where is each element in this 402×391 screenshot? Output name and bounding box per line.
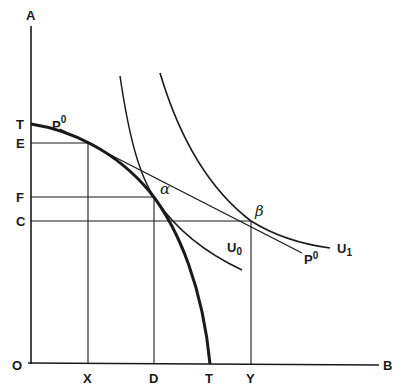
tick-label-Y: Y bbox=[246, 371, 255, 386]
tick-label-X: X bbox=[83, 371, 92, 386]
indifference-curve-U0 bbox=[120, 76, 242, 270]
axis-label-B: B bbox=[383, 358, 392, 373]
point-alpha-label: α bbox=[160, 180, 170, 198]
indifference-label-U0: U0 bbox=[227, 240, 242, 257]
indifference-label-U1: U1 bbox=[337, 241, 352, 258]
price-line-P0 bbox=[60, 129, 302, 253]
axis-label-A: A bbox=[26, 8, 36, 23]
origin-label-O: O bbox=[12, 358, 22, 373]
price-line-label-top: P0 bbox=[52, 114, 67, 133]
tick-label-T-vertical: T bbox=[16, 117, 24, 132]
trade-diagram: A B O T E F C X D T Y P0 P0 U0 U1 α β bbox=[0, 0, 402, 391]
point-beta-label: β bbox=[254, 202, 264, 220]
price-line-label-bottom: P0 bbox=[304, 250, 319, 267]
tick-label-T-horizontal: T bbox=[205, 371, 213, 386]
tick-label-D: D bbox=[149, 371, 158, 386]
indifference-curve-U1 bbox=[160, 73, 330, 248]
tick-label-F: F bbox=[16, 190, 24, 205]
horizontal-axis bbox=[28, 363, 379, 365]
tick-label-E: E bbox=[16, 136, 25, 151]
tick-label-C: C bbox=[16, 214, 26, 229]
